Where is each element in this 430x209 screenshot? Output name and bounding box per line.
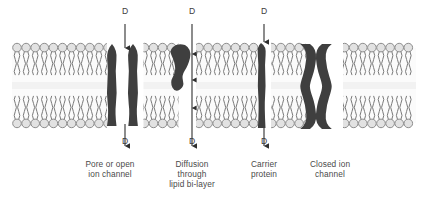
- label-line: Closed ion: [294, 159, 366, 169]
- carrier-bottom-D: D: [254, 137, 274, 146]
- label-line: lipid bi-layer: [159, 179, 225, 189]
- label-line: channel: [294, 169, 366, 179]
- label-diffusion-through-lipid-bilayer: Diffusion through lipid bi-layer: [159, 159, 225, 190]
- carrier-top-D: D: [254, 7, 274, 16]
- pore-bottom-D: D: [115, 137, 135, 146]
- channel-half-right: [128, 44, 138, 126]
- diffusion-bottom-D: D: [182, 137, 202, 146]
- pore-top-D: D: [115, 7, 135, 16]
- label-line: Carrier: [236, 159, 292, 169]
- label-line: protein: [236, 169, 292, 179]
- label-pore-or-open-ion-channel: Pore or open ion channel: [64, 159, 156, 179]
- bilayer-midline: [12, 82, 416, 89]
- carrier-protein: [258, 43, 266, 128]
- label-line: Diffusion: [159, 159, 225, 169]
- phospholipid-bilayer: [12, 43, 416, 127]
- label-line: ion channel: [64, 169, 156, 179]
- label-closed-ion-channel: Closed ion channel: [294, 159, 366, 179]
- label-line: through: [159, 169, 225, 179]
- channel-half-left: [107, 44, 117, 126]
- diffusion-top-D: D: [182, 7, 202, 16]
- label-carrier-protein: Carrier protein: [236, 159, 292, 179]
- label-line: Pore or open: [64, 159, 156, 169]
